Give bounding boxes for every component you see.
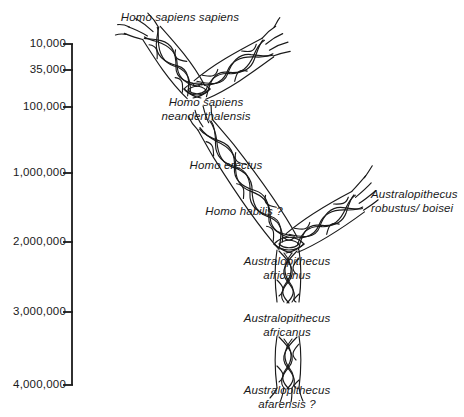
taxon-line: neanderthalensis [161, 110, 250, 124]
taxon-line: Homo sapiens sapiens [121, 11, 239, 25]
taxon-line: Australopithecus [244, 255, 331, 269]
taxon-line: Australopithecus [244, 384, 331, 398]
taxon-label-homo-habilis: Homo habilis ? [205, 205, 282, 219]
taxon-label-australopithecus-afarensis: Australopithecus afarensis ? [244, 384, 331, 411]
taxon-label-homo-sapiens-sapiens: Homo sapiens sapiens [121, 11, 239, 25]
figure-canvas: 10,000 35,000 100,000 1,000,000 2,000,00… [0, 0, 464, 417]
taxon-label-homo-erectus: Homo erectus [190, 159, 263, 173]
axis-tick-label-3000000: 3,000,000 [13, 305, 66, 317]
taxon-line: africanus [244, 269, 331, 283]
taxon-line: robustus/ boisei [371, 202, 458, 216]
taxon-line: Homo erectus [190, 159, 263, 173]
taxon-label-australopithecus-africanus-upper: Australopithecus africanus [244, 255, 331, 282]
branch-homo-erectus-habilis [184, 101, 301, 251]
taxon-line: africanus [244, 326, 331, 340]
axis-tick-label-10000: 10,000 [30, 37, 66, 49]
taxon-line: afarensis ? [244, 398, 331, 412]
taxon-label-australopithecus-africanus-lower: Australopithecus africanus [244, 312, 331, 339]
axis-tick-label-1000000: 1,000,000 [13, 166, 66, 178]
branches-group [111, 3, 391, 402]
axis-group [63, 44, 73, 385]
taxon-line: Homo habilis ? [205, 205, 282, 219]
axis-tick-label-35000: 35,000 [30, 63, 66, 75]
taxon-line: Australopithecus [244, 312, 331, 326]
taxon-line: Homo sapiens [161, 96, 250, 110]
taxon-label-homo-sapiens-neanderthalensis: Homo sapiens neanderthalensis [161, 96, 250, 123]
axis-tick-label-100000: 100,000 [23, 100, 66, 112]
axis-tick-label-2000000: 2,000,000 [13, 235, 66, 247]
taxon-label-australopithecus-robustus-boisei: Australopithecus robustus/ boisei [371, 188, 458, 215]
axis-tick-label-4000000: 4,000,000 [13, 378, 66, 390]
taxon-line: Australopithecus [371, 188, 458, 202]
